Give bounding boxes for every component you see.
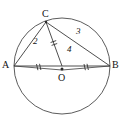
tick-marks-ao — [37, 64, 41, 70]
segment-co — [46, 22, 62, 66]
point-label-o: O — [58, 73, 65, 83]
length-label-ab: 4 — [67, 45, 72, 54]
segment-ca — [14, 22, 46, 66]
vertex-c-dot — [45, 21, 47, 23]
point-label-c: C — [42, 9, 49, 19]
length-label-cb: 3 — [76, 27, 81, 36]
length-label-ca: 2 — [33, 37, 38, 46]
geometry-canvas — [0, 0, 124, 125]
point-label-a: A — [2, 60, 9, 70]
center-point-dot — [61, 68, 64, 71]
tick-marks-ob — [84, 64, 88, 70]
segment-ob-lower — [62, 66, 110, 70]
point-label-b: B — [112, 60, 119, 70]
geometry-figure: A B C O 2 3 4 — [0, 0, 124, 125]
